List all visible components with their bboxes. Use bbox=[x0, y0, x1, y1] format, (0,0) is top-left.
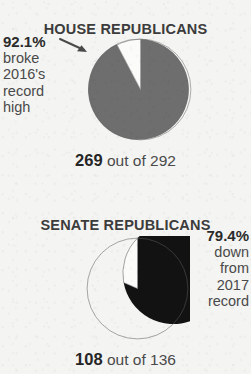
house-caption-rest: out of 292 bbox=[103, 152, 176, 169]
senate-annotation: 79.4% down from 2017 record bbox=[171, 228, 249, 309]
senate-caption: 108 out of 136 bbox=[0, 350, 251, 369]
house-annotation-line-2: 2016's bbox=[3, 66, 63, 82]
house-annotation-line-3: record bbox=[3, 83, 63, 99]
senate-slice-remainder bbox=[123, 238, 138, 288]
house-annotation-line-1: broke bbox=[3, 50, 63, 66]
house-annotation-line-4: high bbox=[3, 99, 63, 115]
senate-caption-rest: out of 136 bbox=[103, 351, 176, 368]
senate-republicans-chart-panel: SENATE REPUBLICANS 79.4% down from 2017 … bbox=[0, 188, 251, 374]
house-republicans-chart-panel: HOUSE REPUBLICANS 92.1% broke 2016's rec… bbox=[0, 0, 251, 188]
senate-annotation-line-4: record bbox=[171, 293, 249, 309]
senate-annotation-line-1: down bbox=[171, 244, 249, 260]
house-pie-chart bbox=[88, 37, 193, 142]
house-caption: 269 out of 292 bbox=[0, 151, 251, 170]
senate-percent-label: 79.4% bbox=[171, 228, 249, 244]
house-percent-label: 92.1% bbox=[3, 34, 63, 50]
house-annotation: 92.1% broke 2016's record high bbox=[3, 34, 63, 115]
senate-annotation-line-3: 2017 bbox=[171, 277, 249, 293]
senate-annotation-line-2: from bbox=[171, 260, 249, 276]
house-caption-value: 269 bbox=[75, 151, 103, 169]
senate-caption-value: 108 bbox=[75, 350, 103, 368]
